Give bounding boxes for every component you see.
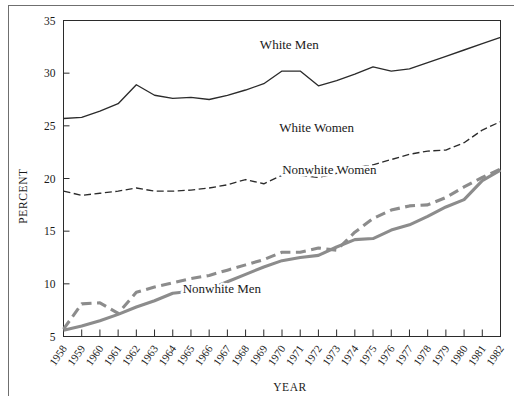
x-tick-label: 1972 [302,343,324,368]
y-tick-label: 30 [44,67,56,79]
x-tick-label: 1966 [192,342,215,367]
y-tick-label: 20 [44,173,56,185]
y-tick-label: 25 [44,120,56,132]
x-tick-label: 1959 [65,342,88,367]
plot-frame [64,21,501,337]
x-tick-label: 1982 [484,343,506,368]
x-axis-title: YEAR [273,381,307,393]
x-tick-label: 1973 [320,342,343,367]
x-tick-label: 1977 [393,342,416,367]
x-tick-label: 1971 [283,343,305,368]
line-chart: 5101520253035195819591960196119621963196… [0,0,521,400]
x-tick-label: 1978 [411,342,434,367]
x-tick-label: 1979 [429,342,452,367]
x-axis: 1958195919601961196219631964196519661967… [47,330,506,368]
x-tick-label: 1962 [120,343,142,368]
x-tick-label: 1958 [47,342,70,367]
x-tick-label: 1975 [356,342,379,367]
y-tick-label: 15 [44,225,56,237]
y-tick-label: 35 [44,15,56,27]
x-tick-label: 1960 [83,342,106,367]
x-tick-label: 1969 [247,342,270,367]
series-label-white-women: White Women [279,120,354,135]
x-tick-label: 1961 [101,343,123,368]
x-tick-label: 1976 [374,342,397,367]
y-tick-label: 10 [44,278,56,290]
x-tick-label: 1981 [465,343,487,368]
y-axis-title: PERCENT [17,168,29,223]
x-tick-label: 1967 [211,342,234,367]
x-tick-label: 1964 [156,342,179,367]
x-tick-label: 1963 [138,342,161,367]
x-tick-label: 1980 [447,342,470,367]
series-line-nonwhite-men [64,170,501,330]
x-tick-label: 1968 [229,342,252,367]
y-axis: 5101520253035 [44,15,70,343]
figure-container: 5101520253035195819591960196119621963196… [0,0,521,400]
y-tick-label: 5 [50,331,56,343]
x-tick-label: 1965 [174,342,197,367]
series-line-nonwhite-women [64,169,501,329]
x-tick-label: 1974 [338,342,361,367]
x-tick-label: 1970 [265,342,288,367]
series-label-nonwhite-women: Nonwhite Women [282,162,377,177]
series-label-nonwhite-men: Nonwhite Men [183,281,262,296]
series-label-white-men: White Men [260,37,319,52]
